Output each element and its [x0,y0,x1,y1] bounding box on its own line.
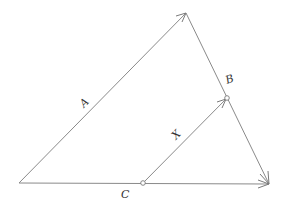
label-x: X [168,127,184,143]
point-c-marker [141,181,146,186]
vector-a [19,13,186,183]
vector-diagram: A B X C [0,0,287,208]
label-b: B [223,72,236,87]
point-b-marker [225,96,230,101]
label-c: C [121,188,130,201]
vector-x [143,98,227,183]
label-a: A [76,95,92,111]
